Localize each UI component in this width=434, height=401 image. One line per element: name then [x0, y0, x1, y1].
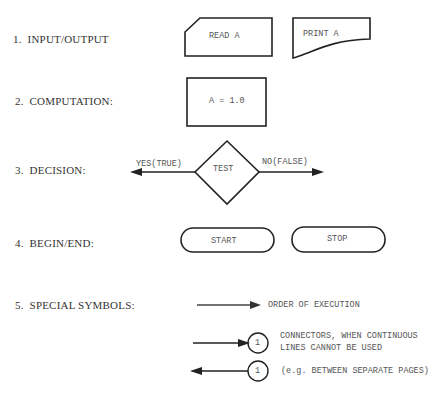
category-special-symbols: 5. SPECIAL SYMBOLS:: [15, 299, 135, 311]
order-arrow-icon: [250, 301, 261, 309]
category-input-output: 1. INPUT/OUTPUT: [13, 33, 109, 45]
start-text: START: [211, 236, 237, 246]
connector-number-1: 1: [255, 338, 260, 348]
category-computation: 2. COMPUTATION:: [15, 95, 113, 107]
connector-description-1: CONNECTORS, WHEN CONTINUOUS: [280, 331, 418, 341]
arrow-left-icon: [130, 168, 142, 176]
category-begin-end: 4. BEGIN/END:: [15, 237, 94, 249]
print-text: PRINT A: [303, 29, 339, 39]
order-text: ORDER OF EXECUTION: [268, 300, 360, 310]
connector-number-2: 1: [255, 366, 260, 376]
read-text: READ A: [209, 31, 240, 41]
connector-out-arrow-icon: [190, 367, 202, 375]
arrow-right-icon: [312, 168, 324, 176]
connector-description-3: (e.g. BETWEEN SEPARATE PAGES): [281, 366, 429, 376]
category-decision: 3. DECISION:: [15, 164, 86, 176]
stop-text: STOP: [327, 234, 347, 244]
no-label: NO(FALSE): [262, 157, 308, 167]
yes-label: YES(TRUE): [136, 159, 182, 169]
computation-text: A = 1.0: [209, 96, 245, 106]
decision-text: TEST: [213, 164, 233, 174]
connector-description-2: LINES CANNOT BE USED: [280, 343, 382, 353]
